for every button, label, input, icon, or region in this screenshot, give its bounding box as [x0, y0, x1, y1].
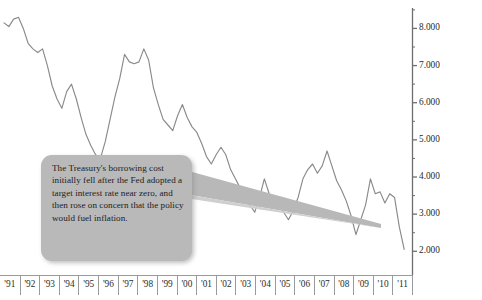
x-axis-tick-label: '98	[137, 275, 157, 295]
x-axis-tick-label: '97	[118, 275, 138, 295]
x-axis-tick-label: '11	[392, 275, 412, 295]
callout-pointer	[185, 168, 381, 240]
callout-text: The Treasury's borrowing cost initially …	[52, 162, 184, 224]
x-axis-tick-label: '94	[59, 275, 79, 295]
x-axis-tick-label: '92	[20, 275, 40, 295]
y-axis-tick-label: 3.000	[419, 208, 440, 218]
y-axis-tick-label: 7.000	[419, 60, 440, 70]
x-axis-tick-label: '99	[157, 275, 177, 295]
y-axis-tick-label: 6.000	[419, 97, 440, 107]
x-axis-labels: '91'92'93'94'95'96'97'98'99'00'01'02'03'…	[0, 275, 412, 300]
x-axis-tick-label: '08	[334, 275, 354, 295]
x-axis-tick-label: '04	[255, 275, 275, 295]
y-axis-tick-label: 8.000	[419, 22, 440, 32]
x-axis-tick-label: '02	[216, 275, 236, 295]
x-axis-tick-label: '03	[235, 275, 255, 295]
x-axis-tick-label: '07	[314, 275, 334, 295]
x-axis-tick-label: '95	[78, 275, 98, 295]
x-axis-tick-label: '01	[196, 275, 216, 295]
y-axis-tick-label: 2.000	[419, 245, 440, 255]
y-axis-tick-label: 4.000	[419, 171, 440, 181]
x-axis-tick-label: '91	[0, 275, 20, 295]
x-axis-tick-label: '00	[177, 275, 197, 295]
x-axis-tick-label: '09	[353, 275, 373, 295]
callout-box: The Treasury's borrowing cost initially …	[41, 155, 192, 261]
chart-page: The Treasury's borrowing cost initially …	[0, 0, 482, 300]
x-axis-tick-label: '06	[294, 275, 314, 295]
y-axis-ticks	[413, 10, 418, 251]
y-axis-tick-label: 5.000	[419, 134, 440, 144]
x-axis-tick-label: '10	[373, 275, 393, 295]
x-axis-tick-label: '96	[98, 275, 118, 295]
x-axis-end-separator	[412, 275, 413, 295]
x-axis-tick-label: '05	[275, 275, 295, 295]
x-axis-tick-label: '93	[39, 275, 59, 295]
